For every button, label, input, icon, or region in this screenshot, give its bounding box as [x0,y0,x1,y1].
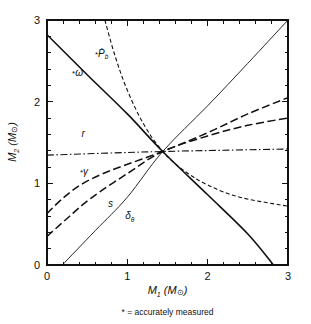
curve-label-delta-theta: δθ [125,210,135,223]
curve-label-gamma: *γ [80,166,89,177]
mass-mass-diagram-figure: 0123 0123 *ω*Ṗbr*γsδθ M1 (M⊙) M2 (M⊙) *… [0,0,311,324]
data-curves [47,20,288,265]
x-axis-title: M1 (M⊙) [148,284,188,298]
curve-label-P-dot-b: *Ṗb [95,48,109,61]
curve-label-omega-dot: *ω [72,67,83,78]
x-axis-tick-labels: 0123 [44,270,291,282]
plot-frame [47,20,288,265]
y-tick-label: 2 [34,96,40,108]
curve-r [47,149,288,155]
y-axis-title: M2 (M⊙) [6,122,20,162]
major-tick-marks [47,20,288,265]
curve-label-s: s [108,198,113,209]
accuracy-footnote: * = accurately measured [122,307,214,317]
minor-tick-marks [47,20,288,265]
chart-svg: 0123 0123 *ω*Ṗbr*γsδθ M1 (M⊙) M2 (M⊙) *… [0,0,311,324]
y-tick-label: 3 [34,14,40,26]
curve-label-r: r [81,128,85,139]
curve-P-dot-b [105,20,288,206]
y-tick-label: 1 [34,177,40,189]
x-tick-label: 1 [124,270,130,282]
svg-text:M1 (M⊙): M1 (M⊙) [148,284,188,298]
x-tick-label: 2 [205,270,211,282]
x-tick-label: 3 [285,270,291,282]
x-tick-label: 0 [44,270,50,282]
svg-text:M2 (M⊙): M2 (M⊙) [6,122,20,162]
curve-labels: *ω*Ṗbr*γsδθ [72,48,135,223]
y-tick-label: 0 [34,259,40,271]
y-axis-tick-labels: 0123 [34,14,40,271]
